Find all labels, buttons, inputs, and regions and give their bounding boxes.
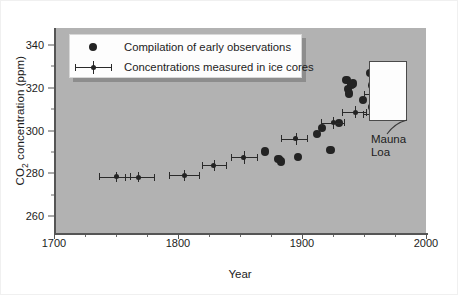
x-tick-minor [333,233,334,237]
x-tick-mark [178,233,179,239]
y-axis-title-suffix: concentration (ppm) [14,56,26,163]
x-error-left-cap [281,135,282,142]
observation-data-point [261,147,269,155]
x-error-right-cap [307,135,308,142]
x-error-left-cap [99,173,100,180]
x-error-right-cap [257,154,258,161]
figure-container: CO2 concentration (ppm) 2602803003203401… [0,0,458,295]
x-tick-mark [426,233,427,239]
observation-data-point [277,157,285,165]
y-tick-label: 280 [14,167,44,179]
x-tick-minor [209,233,210,237]
observation-data-point [345,89,353,97]
y-tick-label: 300 [14,125,44,137]
x-error-left-cap [231,154,232,161]
x-tick-minor [85,233,86,237]
mauna-loa-leader-line [365,119,425,149]
filled-circle-icon [89,43,97,51]
observation-data-point [326,146,334,154]
x-error-left-cap [342,109,343,116]
y-tick-label: 320 [14,82,44,94]
legend-entry-ice-cores: Concentrations measured in ice cores [70,57,301,77]
x-tick-minor [147,233,148,237]
observation-data-point [349,79,357,87]
x-tick-minor [271,233,272,237]
observation-data-point [318,124,326,132]
x-error-left-cap [169,172,170,179]
y-tick-mark [48,215,54,216]
x-error-right-cap [344,119,345,126]
y-tick-minor [51,151,55,152]
y-axis-title: CO2 concentration (ppm) [14,31,29,211]
legend: Compilation of early observations Concen… [69,34,302,78]
x-tick-minor [395,233,396,237]
y-tick-mark [48,130,54,131]
error-bar-left-cap-icon [75,64,76,71]
y-tick-label: 260 [14,210,44,222]
y-tick-label: 340 [14,39,44,51]
legend-key-filled-circle [70,37,124,57]
legend-label: Concentrations measured in ice cores [124,61,314,73]
x-tick-minor [116,233,117,237]
x-error-right-cap [199,172,200,179]
x-tick-minor [364,233,365,237]
observation-data-point [359,96,367,104]
ice-core-marker [353,110,358,115]
ice-core-marker [182,173,187,178]
y-tick-minor [51,109,55,110]
y-tick-mark [48,87,54,88]
y-tick-minor [51,194,55,195]
ice-core-marker [331,120,336,125]
x-tick-minor [240,233,241,237]
x-error-right-cap [154,174,155,181]
error-bar-right-cap-icon [111,64,112,71]
legend-label: Compilation of early observations [124,41,291,53]
x-error-left-cap [321,119,322,126]
x-error-left-cap [363,111,364,118]
data-point-icon [91,65,96,70]
mauna-loa-inset-box [369,61,407,121]
x-error-right-cap [226,162,227,169]
legend-key-error-bar-point [70,57,124,77]
ice-core-marker [114,174,119,179]
y-tick-minor [51,66,55,67]
x-error-left-cap [364,91,365,98]
x-tick-mark [54,233,55,239]
x-tick-mark [302,233,303,239]
x-error-left-cap [202,162,203,169]
x-axis-title: Year [54,268,426,280]
legend-entry-early-observations: Compilation of early observations [70,37,301,57]
y-tick-mark [48,45,54,46]
y-tick-mark [48,173,54,174]
ice-core-marker [136,175,141,180]
x-error-left-cap [125,174,126,181]
